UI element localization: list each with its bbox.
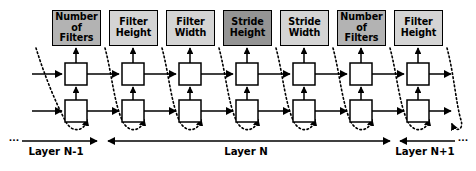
param-box-filter-height-1[interactable]: Filter Height [109, 10, 158, 46]
param-box-line1: Number [340, 12, 382, 23]
param-box-line2: Height [401, 28, 437, 39]
param-box-line2: Width [175, 28, 207, 39]
layer-label-prev: Layer N-1 [12, 146, 100, 157]
param-box-line2: of Filters [53, 23, 100, 44]
param-box-line2: of Filters [338, 23, 385, 44]
vertical-output-arrows-to-boxes [76, 48, 418, 63]
ellipsis-left: ... [6, 133, 22, 143]
layer-label-next: Layer N+1 [381, 146, 469, 157]
param-box-number-of-filters-2[interactable]: Number of Filters [337, 10, 386, 46]
param-box-line2: Height [116, 28, 152, 39]
param-box-line1: Number [55, 12, 97, 23]
rnn-parameter-diagram: Number of Filters Filter Height Filter W… [0, 0, 476, 171]
param-box-filter-width-1[interactable]: Filter Width [166, 10, 215, 46]
param-box-stride-width-1[interactable]: Stride Width [280, 10, 329, 46]
param-box-number-of-filters-1[interactable]: Number of Filters [52, 10, 101, 46]
param-box-filter-height-2[interactable]: Filter Height [394, 10, 443, 46]
vertical-up-arrows-between-rows [76, 87, 418, 100]
param-box-line2: Height [230, 28, 266, 39]
param-box-stride-height-1[interactable]: Stride Height [223, 10, 272, 46]
ellipsis-right: ... [455, 133, 471, 143]
param-box-line2: Width [289, 28, 321, 39]
layer-label-current: Layer N [202, 146, 290, 157]
